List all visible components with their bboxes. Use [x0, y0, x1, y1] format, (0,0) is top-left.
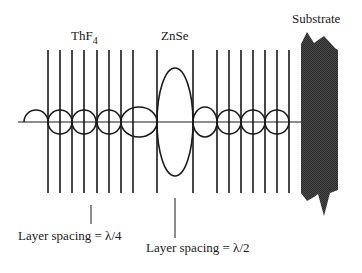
substrate-label: Substrate: [292, 11, 341, 26]
quarter-spacing-label: Layer spacing = λ/4: [18, 228, 122, 243]
half-spacing-label: Layer spacing = λ/2: [146, 240, 250, 255]
thf4-label: ThF4: [71, 28, 98, 46]
thin-film-diagram: ThF4 ZnSe Substrate Layer spacing = λ/4 …: [0, 0, 362, 273]
substrate-block: [301, 32, 338, 216]
wave-half-lobe: [24, 110, 48, 122]
znse-label: ZnSe: [161, 28, 189, 43]
thf4-subscript: 4: [93, 35, 98, 46]
